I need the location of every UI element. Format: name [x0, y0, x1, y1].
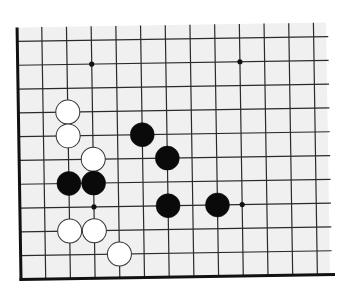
black-stone-icon: [205, 193, 229, 217]
go-board: [0, 0, 350, 294]
black-stone-icon: [155, 146, 179, 170]
white-stone-icon: [56, 100, 80, 124]
white-stone-icon: [81, 147, 105, 171]
board-group: [16, 23, 335, 281]
black-stone-icon: [81, 171, 105, 195]
black-stone-icon: [130, 123, 154, 147]
white-stone-icon: [82, 218, 106, 242]
white-stone-icon: [57, 219, 81, 243]
black-stone-icon: [57, 171, 81, 195]
black-stone-icon: [156, 194, 180, 218]
go-board-diagram: [0, 0, 350, 294]
white-stone-icon: [107, 242, 131, 266]
white-stone-icon: [56, 124, 80, 148]
